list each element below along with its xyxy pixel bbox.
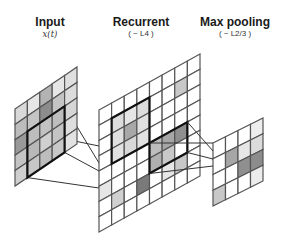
- input-to-recurrent-connector: [27, 178, 99, 188]
- input-grid: [15, 67, 77, 186]
- network-diagram: [0, 0, 281, 248]
- max-pooling-grid: [213, 118, 263, 206]
